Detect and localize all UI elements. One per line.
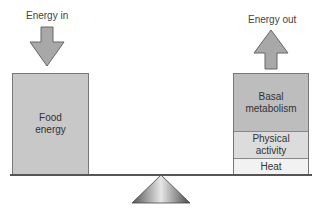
- down-arrow-icon: [30, 27, 70, 67]
- basal-metabolism-segment: Basal metabolism: [234, 74, 308, 132]
- up-arrow-icon: [254, 30, 294, 70]
- food-energy-label-line2: energy: [35, 124, 66, 136]
- food-energy-label-line1: Food: [35, 112, 66, 124]
- physical-activity-segment: Physical activity: [234, 132, 308, 159]
- fulcrum-triangle-icon: [131, 175, 191, 205]
- heat-segment: Heat: [234, 159, 308, 174]
- energy-in-label: Energy in: [26, 10, 68, 21]
- food-energy-box: Food energy: [12, 73, 89, 175]
- energy-out-stack: Basal metabolism Physical activity Heat: [233, 73, 309, 175]
- energy-out-label: Energy out: [248, 14, 296, 25]
